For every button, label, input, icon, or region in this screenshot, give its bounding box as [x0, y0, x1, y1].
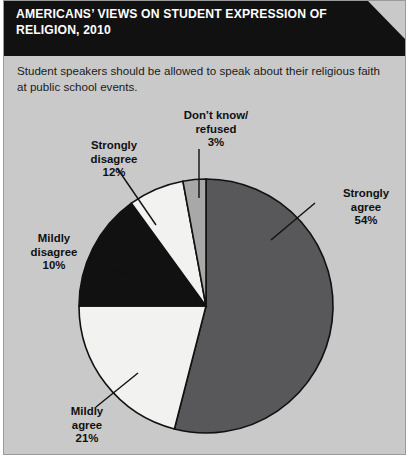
- pie-label-strongly-disagree: Strongly disagree 12%: [62, 139, 166, 180]
- chart-card: AMERICANS’ VIEWS ON STUDENT EXPRESSION O…: [3, 0, 406, 455]
- pie-chart: [4, 1, 406, 455]
- pie-label-mildly-disagree: Mildly disagree 10%: [8, 232, 100, 273]
- figure-root: AMERICANS’ VIEWS ON STUDENT EXPRESSION O…: [0, 0, 412, 476]
- pie-label-dont-know: Don’t know/ refused 3%: [164, 109, 268, 150]
- pie-label-mildly-agree: Mildly agree 21%: [40, 405, 134, 446]
- pie-label-strongly-agree: Strongly agree 54%: [320, 187, 406, 228]
